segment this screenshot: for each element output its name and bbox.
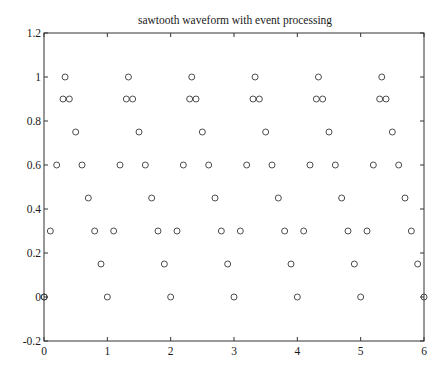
data-point-circle-icon: [168, 294, 174, 300]
data-point-circle-icon: [307, 162, 313, 168]
data-point-circle-icon: [339, 195, 345, 201]
x-tick-label: 5: [358, 345, 364, 357]
y-tick-label: 1.2: [27, 27, 42, 39]
y-tick-label: 0.6: [27, 159, 42, 171]
data-point-circle-icon: [189, 74, 195, 80]
x-tick-label: 1: [104, 345, 110, 357]
data-series-sawtooth: [41, 74, 427, 300]
data-point-circle-icon: [212, 195, 218, 201]
x-tick-label: 4: [294, 345, 300, 357]
data-point-circle-icon: [282, 228, 288, 234]
x-tick-label: 0: [41, 345, 47, 357]
data-point-circle-icon: [275, 195, 281, 201]
data-point-circle-icon: [358, 294, 364, 300]
plot-frame: [44, 33, 424, 341]
data-point-circle-icon: [294, 294, 300, 300]
data-point-circle-icon: [379, 74, 385, 80]
data-point-circle-icon: [269, 162, 275, 168]
y-tick-label: 0.8: [27, 115, 42, 127]
data-point-circle-icon: [402, 195, 408, 201]
data-point-circle-icon: [345, 228, 351, 234]
data-point-circle-icon: [79, 162, 85, 168]
data-point-circle-icon: [155, 228, 161, 234]
data-point-circle-icon: [250, 96, 256, 102]
data-point-circle-icon: [199, 129, 205, 135]
y-tick-label: 0: [35, 291, 41, 303]
data-point-circle-icon: [370, 162, 376, 168]
data-point-circle-icon: [125, 74, 131, 80]
data-point-circle-icon: [313, 96, 319, 102]
data-point-circle-icon: [396, 162, 402, 168]
data-point-circle-icon: [66, 96, 72, 102]
data-point-circle-icon: [62, 74, 68, 80]
data-point-circle-icon: [231, 294, 237, 300]
data-point-circle-icon: [47, 228, 53, 234]
x-axis-ticks: 0123456: [41, 33, 427, 357]
x-tick-label: 6: [421, 345, 427, 357]
data-point-circle-icon: [408, 228, 414, 234]
data-point-circle-icon: [237, 228, 243, 234]
data-point-circle-icon: [244, 162, 250, 168]
data-point-circle-icon: [326, 129, 332, 135]
y-tick-label: 1: [35, 71, 41, 83]
data-point-circle-icon: [351, 261, 357, 267]
data-point-circle-icon: [389, 129, 395, 135]
data-point-circle-icon: [193, 96, 199, 102]
data-point-circle-icon: [415, 261, 421, 267]
y-tick-label: 0.2: [27, 247, 42, 259]
data-point-circle-icon: [149, 195, 155, 201]
data-point-circle-icon: [301, 228, 307, 234]
data-point-circle-icon: [136, 129, 142, 135]
sawtooth-scatter-chart: sawtooth waveform with event processing …: [0, 0, 448, 375]
data-point-circle-icon: [332, 162, 338, 168]
data-point-circle-icon: [54, 162, 60, 168]
data-point-circle-icon: [218, 228, 224, 234]
data-point-circle-icon: [180, 162, 186, 168]
data-point-circle-icon: [252, 74, 258, 80]
y-tick-label: 0.4: [27, 203, 42, 215]
data-point-circle-icon: [98, 261, 104, 267]
data-point-circle-icon: [377, 96, 383, 102]
x-tick-label: 3: [231, 345, 237, 357]
data-point-circle-icon: [111, 228, 117, 234]
data-point-circle-icon: [117, 162, 123, 168]
data-point-circle-icon: [263, 129, 269, 135]
data-point-circle-icon: [256, 96, 262, 102]
data-point-circle-icon: [85, 195, 91, 201]
chart-title: sawtooth waveform with event processing: [138, 14, 332, 27]
data-point-circle-icon: [104, 294, 110, 300]
data-point-circle-icon: [130, 96, 136, 102]
data-point-circle-icon: [383, 96, 389, 102]
data-point-circle-icon: [123, 96, 129, 102]
data-point-circle-icon: [142, 162, 148, 168]
data-point-circle-icon: [288, 261, 294, 267]
data-point-circle-icon: [315, 74, 321, 80]
x-tick-label: 2: [168, 345, 174, 357]
data-point-circle-icon: [225, 261, 231, 267]
data-point-circle-icon: [206, 162, 212, 168]
data-point-circle-icon: [320, 96, 326, 102]
data-point-circle-icon: [174, 228, 180, 234]
data-point-circle-icon: [364, 228, 370, 234]
data-point-circle-icon: [161, 261, 167, 267]
y-tick-label: -0.2: [23, 335, 41, 347]
y-axis-ticks: -0.200.20.40.60.811.2: [23, 27, 424, 347]
data-point-circle-icon: [60, 96, 66, 102]
data-point-circle-icon: [92, 228, 98, 234]
data-point-circle-icon: [73, 129, 79, 135]
data-point-circle-icon: [187, 96, 193, 102]
